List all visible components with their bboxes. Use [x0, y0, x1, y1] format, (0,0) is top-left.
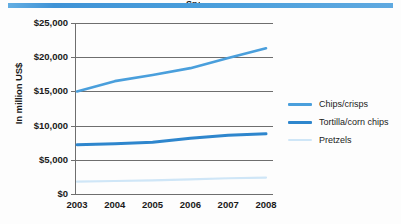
plot-area: $25,000$20,000$15,000$10,000$5,000$0 200…	[76, 23, 273, 194]
series-line-tortilla-corn-chips	[77, 134, 266, 145]
series-line-pretzels	[77, 178, 266, 182]
legend-swatch-icon	[288, 139, 312, 141]
legend-swatch-icon	[288, 121, 312, 124]
header-accent-gradient	[8, 3, 393, 8]
y-tick-label: $5,000	[8, 154, 68, 165]
clipped-title: Snack	[186, 0, 200, 3]
legend-item[interactable]: Chips/crisps	[288, 96, 400, 114]
x-tick-label: 2003	[57, 199, 97, 210]
x-tick-label: 2005	[133, 199, 173, 210]
x-tick-label: 2008	[246, 199, 286, 210]
legend-item[interactable]: Pretzels	[288, 132, 400, 150]
y-tick-label: $0	[8, 188, 68, 199]
x-tick-label: 2006	[170, 199, 210, 210]
legend-label: Tortilla/corn chips	[319, 114, 389, 131]
series-lines	[76, 23, 273, 195]
x-tick-label: 2004	[95, 199, 135, 210]
y-tick-label: $15,000	[8, 85, 68, 96]
series-line-chips-crisps	[77, 48, 266, 91]
y-tick-label: $25,000	[8, 17, 68, 28]
header-accent-bar	[8, 3, 393, 8]
chart-legend: Chips/crispsTortilla/corn chipsPretzels	[288, 96, 400, 150]
y-tick-label: $10,000	[8, 120, 68, 131]
legend-swatch-icon	[288, 103, 312, 106]
legend-label: Pretzels	[319, 132, 352, 149]
chart-page: Snack In million US$ $25,000$20,000$15,0…	[0, 0, 401, 224]
y-tick-label: $20,000	[8, 51, 68, 62]
x-tick-label: 2007	[208, 199, 248, 210]
legend-item[interactable]: Tortilla/corn chips	[288, 114, 400, 132]
legend-label: Chips/crisps	[319, 96, 368, 113]
